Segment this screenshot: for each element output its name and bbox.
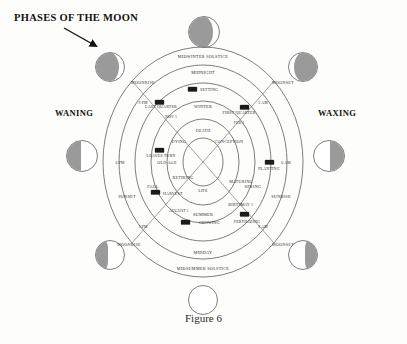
label-death: DEATH [196,128,211,133]
label-retiring: RETIRING [172,175,193,180]
tick-3pm: 3 PM [138,225,148,229]
label-leaves-turn: LEAVES TURN [147,153,176,158]
note-moonset-top-right: MOONSET [272,80,294,85]
last-quarter-left-icon [66,140,98,172]
pointer-arrow-icon [62,26,106,52]
phase-chip-setting [188,87,197,92]
label-harvest: HARVEST [163,191,183,196]
label-season-fall: FALL [147,184,159,189]
note-moonset-bottom-right: MOONSET [272,242,294,247]
tick-6pm: 6 PM [115,161,125,165]
new-moon-bottom-icon [188,285,218,315]
label-growing: GROWING [199,220,220,225]
waxing-caption: WAXING [318,108,356,118]
label-sunset: SUNSET [118,194,136,199]
tick-august-1: AUGUST 1 [169,209,189,213]
label-midwinter-solstice: MIDWINTER SOLSTICE [178,54,229,59]
label-dying: DYING [172,139,186,144]
label-conception: CONCEPTION [215,139,243,144]
waning-caption: WANING [55,108,93,118]
phase-chip-harvest [151,190,160,195]
tick-6am: 6 AM [281,161,291,165]
tick-feb-1: FEB 1 [234,121,245,125]
phase-chip-planting [265,160,274,165]
note-moonrise-top-left: MOONRISE [131,80,155,85]
label-midnight: MIDNIGHT [191,70,215,75]
label-season-spring: SPRING [245,184,262,189]
tick-3am: 3 AM [258,101,268,105]
label-maturing: MATURING [229,179,253,184]
first-quarter-right-icon [313,140,345,172]
label-last-quarter: LAST QUARTER [145,104,177,109]
label-first-quarter: FIRST QUARTER [222,110,255,115]
figure-page: PHASES OF THE MOON WANING WAXING [0,0,407,344]
moon-shade [66,140,81,172]
label-midday: MIDDAY [194,250,213,255]
phase-chip-first-quarter [240,105,249,110]
moon-shade [330,140,345,172]
label-old-age: OLD AGE [157,160,177,165]
page-title: PHASES OF THE MOON [14,12,138,23]
phase-chip-fertilizing [240,212,249,217]
phase-chip-growing [181,220,190,225]
phase-chip-leaves-turn [155,148,164,153]
label-setting: SETTING [200,87,218,92]
label-midsummer-solstice: MIDSUMMER SOLSTICE [177,266,229,271]
label-season-winter: WINTER [194,104,212,109]
tick-nov-1: NOV 1 [165,115,177,119]
label-birth: BIRTH [228,202,241,207]
label-planting: PLANTING [258,166,280,171]
note-moonrise-bottom-left: MOONRISE [117,242,141,247]
tick-9am: 9 AM [258,225,268,229]
tick-may-1: MAY 1 [241,203,253,207]
label-fertilizing: FERTILIZING [234,219,260,224]
moon-shade [305,240,318,270]
label-sunrise: SUNRISE [271,194,291,199]
figure-caption: Figure 6 [0,312,407,324]
label-season-summer: SUMMER [193,212,213,217]
label-life: LIFE [198,188,208,193]
